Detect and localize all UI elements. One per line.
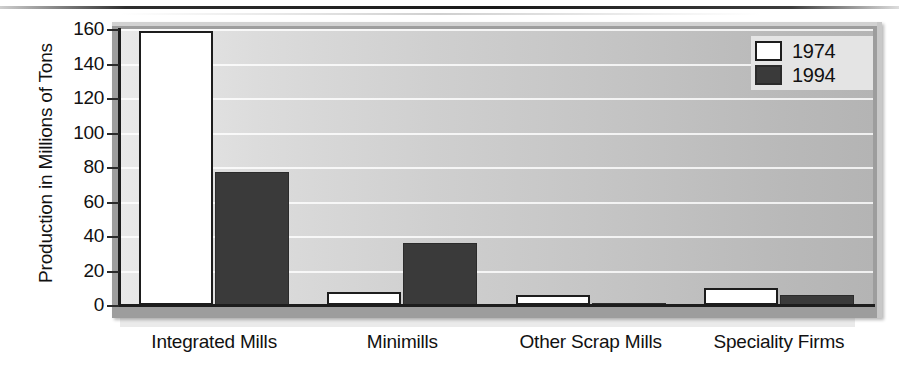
legend-swatch-1974 xyxy=(755,41,782,61)
scan-smudge-bottom xyxy=(120,318,855,327)
x-tick-label: Other Scrap Mills xyxy=(519,331,661,353)
x-axis-line xyxy=(118,304,875,307)
y-tick-label: 60 xyxy=(52,191,104,213)
bar-chart: Production in Millions of Tons 020406080… xyxy=(0,0,899,373)
y-tick-mark xyxy=(107,98,119,100)
plot-frame-right-shade xyxy=(877,22,882,318)
y-tick-mark xyxy=(107,29,119,31)
gridline xyxy=(120,167,873,169)
y-tick-label: 120 xyxy=(52,87,104,109)
y-tick-mark xyxy=(107,271,119,273)
y-tick-label: 80 xyxy=(52,156,104,178)
x-tick-label: Integrated Mills xyxy=(151,331,277,353)
y-tick-mark xyxy=(107,236,119,238)
y-tick-mark xyxy=(107,167,119,169)
gridline xyxy=(120,29,873,31)
y-tick-mark xyxy=(107,133,119,135)
legend-swatch-1994 xyxy=(755,65,782,85)
gridline xyxy=(120,98,873,100)
y-tick-label: 40 xyxy=(52,225,104,247)
plot-frame-highlight xyxy=(112,22,882,26)
legend-label-1994: 1994 xyxy=(792,65,835,85)
y-tick-label: 20 xyxy=(52,260,104,282)
legend-label-1974: 1974 xyxy=(792,41,835,61)
bar-1994-integrated-mills xyxy=(215,172,289,305)
gridline xyxy=(120,133,873,135)
y-tick-label: 140 xyxy=(52,53,104,75)
bar-1974-speciality-firms xyxy=(704,288,778,305)
chart-legend: 1974 1994 xyxy=(751,36,873,90)
y-axis-tick-labels: 020406080100120140160 xyxy=(52,0,104,373)
y-tick-label: 0 xyxy=(52,294,104,316)
y-tick-mark xyxy=(107,305,119,307)
x-tick-label: Speciality Firms xyxy=(713,331,844,353)
y-tick-label: 160 xyxy=(52,18,104,40)
bar-1974-integrated-mills xyxy=(139,31,213,305)
x-tick-label: Minimills xyxy=(367,331,438,353)
y-tick-mark xyxy=(107,64,119,66)
x-axis-category-labels: Integrated MillsMinimillsOther Scrap Mil… xyxy=(120,331,873,359)
y-tick-mark xyxy=(107,202,119,204)
y-tick-label: 100 xyxy=(52,122,104,144)
legend-item-1974: 1974 xyxy=(755,39,869,63)
legend-item-1994: 1994 xyxy=(755,63,869,87)
bar-1994-minimills xyxy=(403,243,477,305)
